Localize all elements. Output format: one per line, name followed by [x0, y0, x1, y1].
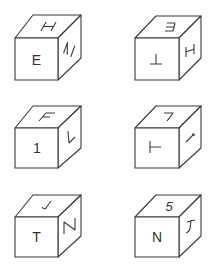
cube-5: T: [0, 180, 106, 270]
cube-6-front-label: N: [152, 229, 162, 245]
cube-4: [106, 90, 213, 180]
cube-5-front-label: T: [32, 229, 41, 245]
cube-3: 1: [0, 90, 106, 180]
cube-1: E: [0, 0, 106, 90]
cube-6: 5 N: [106, 180, 213, 270]
cube-6-top-label: 5: [165, 199, 173, 214]
cube-3-front-label: 1: [33, 140, 41, 156]
cube-1-front-label: E: [32, 52, 41, 68]
cube-4-front-face: [135, 128, 179, 168]
cube-2: [106, 0, 213, 90]
cube-2-front-face: [135, 38, 179, 80]
